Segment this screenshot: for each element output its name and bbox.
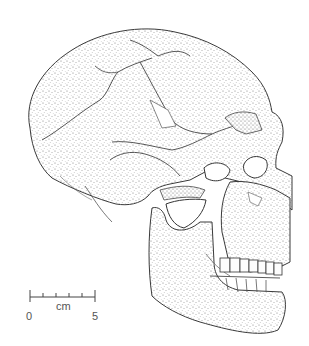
scale-end-label: 5: [92, 311, 98, 322]
scale-unit-label: cm: [56, 301, 71, 312]
skull-illustration: [0, 0, 309, 346]
scale-start-label: 0: [26, 311, 32, 322]
